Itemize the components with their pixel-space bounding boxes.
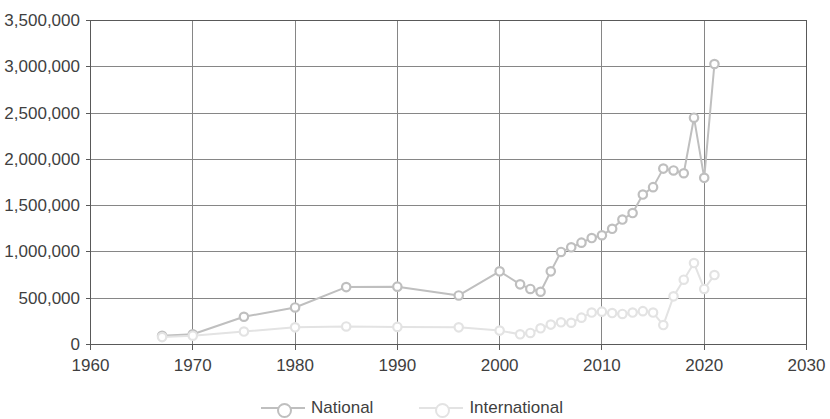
y-axis-tick-label: 2,500,000 — [0, 105, 80, 122]
data-point-marker — [495, 267, 503, 275]
data-point-marker — [659, 321, 667, 329]
data-point-marker — [588, 234, 596, 242]
data-point-marker — [700, 285, 708, 293]
data-point-marker — [291, 303, 299, 311]
data-point-marker — [608, 225, 616, 233]
x-axis-tick-label: 1970 — [153, 357, 233, 374]
legend-label: National — [311, 399, 373, 416]
data-point-marker — [669, 292, 677, 300]
y-axis-tick-label: 3,000,000 — [0, 58, 80, 75]
axis-tick-marks — [86, 21, 807, 350]
legend-marker-icon — [435, 403, 450, 418]
data-point-marker — [547, 320, 555, 328]
data-point-marker — [680, 169, 688, 177]
legend-marker-icon — [277, 403, 292, 418]
x-axis-tick-label: 2020 — [664, 357, 744, 374]
data-point-marker — [577, 238, 585, 246]
data-point-marker — [516, 280, 524, 288]
data-point-marker — [618, 215, 626, 223]
data-point-marker — [516, 330, 524, 338]
data-point-marker — [495, 326, 503, 334]
legend-swatch-icon — [419, 401, 463, 415]
series-line — [162, 263, 714, 337]
legend-item-national[interactable]: National — [261, 399, 373, 416]
y-axis-tick-label-text: 0 — [71, 336, 80, 353]
legend-swatch-icon — [261, 401, 305, 415]
data-point-marker — [526, 329, 534, 337]
grid-lines — [91, 21, 807, 345]
data-point-marker — [526, 285, 534, 293]
data-point-marker — [659, 164, 667, 172]
data-point-marker — [567, 243, 575, 251]
data-point-marker — [680, 276, 688, 284]
y-axis-tick-label-text: 3,000,000 — [4, 58, 80, 75]
y-axis-tick-label-text: 2,000,000 — [4, 151, 80, 168]
y-axis-tick-label: 2,000,000 — [0, 151, 80, 168]
data-point-marker — [598, 307, 606, 315]
data-point-marker — [710, 271, 718, 279]
data-point-marker — [669, 166, 677, 174]
x-axis-tick-label: 2010 — [562, 357, 642, 374]
data-point-marker — [342, 322, 350, 330]
data-series-layer — [158, 60, 719, 341]
data-point-marker — [240, 313, 248, 321]
data-point-marker — [690, 259, 698, 267]
data-point-marker — [649, 308, 657, 316]
y-axis-tick-label-text: 1,500,000 — [4, 197, 80, 214]
chart-legend: NationalInternational — [0, 396, 824, 419]
data-point-marker — [639, 190, 647, 198]
data-point-marker — [557, 248, 565, 256]
data-point-marker — [598, 231, 606, 239]
data-point-marker — [639, 307, 647, 315]
data-point-marker — [189, 332, 197, 340]
data-point-marker — [158, 333, 166, 341]
x-axis-tick-label: 2030 — [767, 357, 830, 374]
data-point-marker — [547, 267, 555, 275]
data-point-marker — [393, 323, 401, 331]
data-point-marker — [618, 310, 626, 318]
data-point-marker — [240, 327, 248, 335]
legend-item-international[interactable]: International — [419, 399, 563, 416]
data-point-marker — [628, 209, 636, 217]
data-point-marker — [690, 114, 698, 122]
data-point-marker — [536, 288, 544, 296]
y-axis-tick-label-text: 500,000 — [19, 290, 80, 307]
y-axis-tick-label-text: 2,500,000 — [4, 105, 80, 122]
series-line — [162, 64, 714, 336]
data-point-marker — [455, 323, 463, 331]
y-axis-tick-label-text: 1,000,000 — [4, 243, 80, 260]
data-point-marker — [608, 309, 616, 317]
data-point-marker — [577, 313, 585, 321]
y-axis-tick-label: 1,500,000 — [0, 197, 80, 214]
data-point-marker — [342, 283, 350, 291]
data-point-marker — [567, 319, 575, 327]
y-axis-tick-label: 1,000,000 — [0, 243, 80, 260]
x-axis-tick-label: 1990 — [357, 357, 437, 374]
data-point-marker — [649, 183, 657, 191]
legend-label: International — [469, 399, 563, 416]
y-axis-tick-label: 500,000 — [0, 290, 80, 307]
plot-frame — [91, 21, 807, 345]
data-point-marker — [710, 60, 718, 68]
data-point-marker — [455, 291, 463, 299]
x-axis-tick-label: 2000 — [460, 357, 540, 374]
y-axis-tick-label-text: 3,500,000 — [4, 12, 80, 29]
x-axis-tick-label: 1960 — [51, 357, 131, 374]
data-point-marker — [393, 282, 401, 290]
y-axis-tick-label: 3,500,000 — [0, 12, 80, 29]
y-axis-tick-label: 0 — [0, 336, 80, 353]
data-series-international — [158, 259, 719, 341]
data-point-marker — [557, 318, 565, 326]
data-point-marker — [588, 308, 596, 316]
data-point-marker — [536, 324, 544, 332]
x-axis-tick-label: 1980 — [255, 357, 335, 374]
data-point-marker — [291, 323, 299, 331]
data-point-marker — [700, 174, 708, 182]
data-point-marker — [628, 308, 636, 316]
